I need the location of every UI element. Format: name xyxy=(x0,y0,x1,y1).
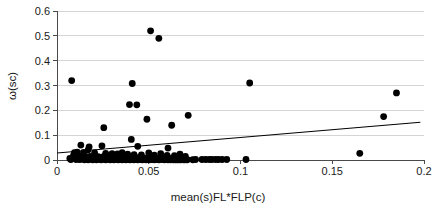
plot-canvas: 00.050.10.150.2 00.10.20.30.40.50.6 mean… xyxy=(0,0,437,208)
data-point xyxy=(165,145,172,152)
trend-line-group xyxy=(57,122,420,153)
trend-line xyxy=(57,122,420,153)
data-point xyxy=(168,122,175,129)
data-point xyxy=(68,77,75,84)
data-point xyxy=(144,116,151,123)
y-tick-label-1: 0.1 xyxy=(35,129,50,141)
data-point xyxy=(128,136,135,143)
data-point xyxy=(246,80,253,87)
data-point xyxy=(155,35,162,42)
x-tick-label-3: 0.15 xyxy=(322,165,343,177)
data-point xyxy=(223,156,230,163)
x-tick-label-1: 0.05 xyxy=(138,165,159,177)
data-point xyxy=(77,142,84,149)
x-axis-title: mean(s)FL*FLP(c) xyxy=(171,191,266,203)
y-tick-label-2: 0.2 xyxy=(35,104,50,116)
x-tick-label-0: 0 xyxy=(54,165,60,177)
data-point xyxy=(393,90,400,97)
data-point xyxy=(182,156,189,163)
x-tick-label-2: 0.1 xyxy=(233,165,248,177)
y-tick-label-0: 0 xyxy=(44,154,50,166)
data-points-group xyxy=(66,27,399,163)
data-point xyxy=(100,124,107,131)
data-point xyxy=(185,112,192,119)
data-point xyxy=(147,27,154,34)
y-axis-title: ω(sc) xyxy=(6,72,18,100)
y-tick-label-3: 0.3 xyxy=(35,80,50,92)
x-tick-labels-group: 00.050.10.150.2 xyxy=(54,165,432,177)
data-point xyxy=(99,142,106,149)
data-point xyxy=(356,150,363,157)
data-point xyxy=(243,156,250,163)
x-tick-label-4: 0.2 xyxy=(416,165,431,177)
data-point xyxy=(380,113,387,120)
y-tick-label-6: 0.6 xyxy=(35,5,50,17)
y-tick-label-5: 0.5 xyxy=(35,30,50,42)
y-tick-labels-group: 00.10.20.30.40.50.6 xyxy=(35,5,50,166)
gridlines-group xyxy=(57,11,424,135)
data-point xyxy=(133,101,140,108)
y-tick-label-4: 0.4 xyxy=(35,55,50,67)
y-tick-marks-group xyxy=(53,11,57,160)
scatter-chart: 00.050.10.150.2 00.10.20.30.40.50.6 mean… xyxy=(0,0,437,208)
data-point xyxy=(129,80,136,87)
data-point xyxy=(126,101,133,108)
data-point xyxy=(192,156,199,163)
